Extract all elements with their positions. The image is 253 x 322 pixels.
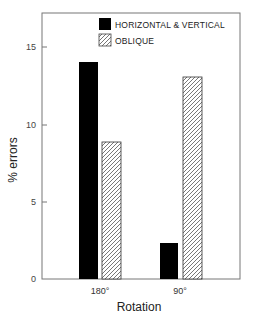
x-axis-title: Rotation — [117, 300, 162, 314]
legend: HORIZONTAL & VERTICAL OBLIQUE — [99, 18, 225, 46]
x-category-180: 180° — [91, 286, 110, 296]
bar-180-oblique — [102, 142, 121, 279]
bar-90-horizontal-vertical — [160, 243, 178, 279]
plot-frame — [42, 13, 240, 279]
y-tick-label-15: 15 — [26, 42, 36, 52]
y-axis-title: % errors — [6, 137, 20, 182]
y-tick-label-10: 10 — [26, 120, 36, 130]
bar-chart: 15 10 5 0 % errors HORIZONTAL & VERTICAL… — [0, 0, 253, 322]
bar-90-oblique — [183, 77, 202, 279]
legend-swatch-hatched — [99, 34, 111, 46]
legend-label-horizontal-vertical: HORIZONTAL & VERTICAL — [115, 20, 225, 30]
y-tick-label-5: 5 — [31, 197, 36, 207]
legend-swatch-solid — [99, 18, 111, 30]
x-category-90: 90° — [173, 286, 187, 296]
y-axis: 15 10 5 0 % errors — [6, 42, 47, 284]
y-tick-label-0: 0 — [31, 274, 36, 284]
bar-180-horizontal-vertical — [79, 62, 98, 279]
legend-label-oblique: OBLIQUE — [115, 36, 154, 46]
bars — [79, 62, 202, 279]
